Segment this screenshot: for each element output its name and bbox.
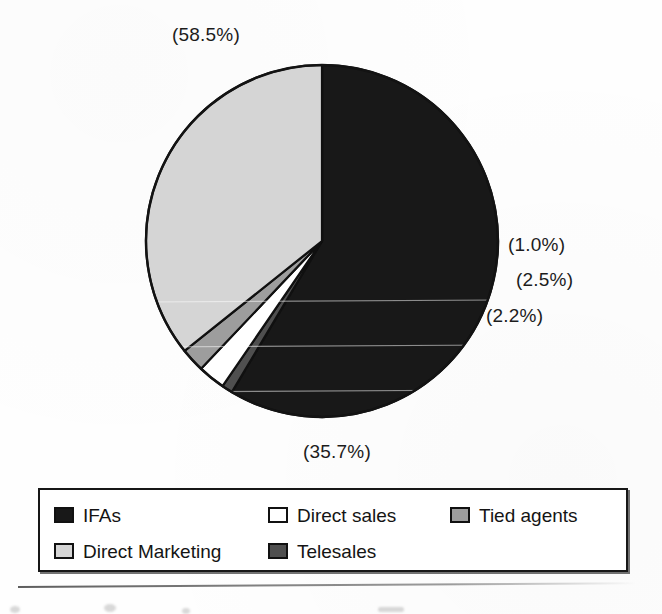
legend-item-ifas[interactable]: IFAs	[54, 498, 121, 532]
scan-smudge	[182, 608, 190, 614]
scan-smudge	[10, 606, 20, 613]
legend-swatch-direct-sales	[268, 507, 288, 523]
legend-item-direct-marketing[interactable]: Direct Marketing	[54, 534, 221, 568]
scan-smudge	[104, 604, 116, 612]
legend-item-telesales[interactable]: Telesales	[268, 534, 376, 568]
legend-row: Direct Marketing Telesales	[40, 534, 626, 568]
legend-swatch-ifas	[54, 507, 74, 523]
pie-label-tied-agents: (2.2%)	[486, 305, 543, 327]
legend-label-tied-agents: Tied agents	[479, 506, 578, 525]
legend-label-direct-sales: Direct sales	[297, 506, 396, 525]
legend-label-direct-marketing: Direct Marketing	[83, 542, 221, 561]
pie-label-telesales: (1.0%)	[508, 234, 565, 256]
legend-label-ifas: IFAs	[83, 506, 121, 525]
legend-swatch-direct-marketing	[54, 543, 74, 559]
pie-label-direct-marketing: (35.7%)	[303, 441, 371, 463]
pie-chart-figure: (58.5%) (1.0%) (2.5%) (2.2%) (35.7%) IFA…	[0, 0, 662, 614]
scan-smudge	[378, 607, 404, 612]
legend-item-tied-agents[interactable]: Tied agents	[450, 498, 578, 532]
chart-legend: IFAs Direct sales Tied agents Direct Mar…	[38, 488, 628, 572]
legend-swatch-telesales	[268, 543, 288, 559]
pie-label-direct-sales: (2.5%)	[516, 269, 573, 291]
pie-slices	[146, 65, 498, 417]
legend-item-direct-sales[interactable]: Direct sales	[268, 498, 396, 532]
legend-label-telesales: Telesales	[297, 542, 376, 561]
legend-row: IFAs Direct sales Tied agents	[40, 498, 626, 532]
legend-swatch-tied-agents	[450, 507, 470, 523]
pie-label-ifas: (58.5%)	[172, 24, 240, 46]
